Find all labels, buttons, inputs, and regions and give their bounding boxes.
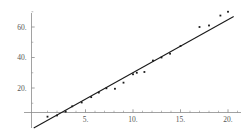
data-point: [180, 45, 182, 47]
scatter-plot-figure: 5.10.15.20. 20.40.60.: [0, 0, 245, 135]
x-axis-tick-label: 10.: [128, 115, 138, 124]
x-axis-tick-label: 5.: [83, 115, 89, 124]
plot-canvas: 5.10.15.20. 20.40.60.: [0, 0, 245, 135]
data-point-markers: [47, 11, 229, 118]
data-point: [106, 87, 108, 89]
data-point: [98, 92, 100, 94]
data-point: [199, 26, 201, 28]
data-point: [136, 72, 138, 74]
data-point: [123, 82, 125, 84]
data-point: [90, 96, 92, 98]
y-axis-ticks: [32, 12, 35, 104]
y-axis-tick-label: 20.: [17, 84, 27, 93]
data-point: [47, 116, 49, 118]
x-axis-tick-label: 15.: [176, 115, 186, 124]
x-axis-tick-label: 20.: [223, 115, 233, 124]
x-axis-ticks: [48, 109, 238, 112]
data-point: [169, 53, 171, 55]
data-point: [81, 102, 83, 104]
data-point: [144, 71, 146, 73]
data-point: [220, 15, 222, 17]
regression-line: [34, 16, 234, 127]
data-point: [56, 115, 58, 117]
data-point: [65, 111, 67, 113]
fitted-regression-line: [34, 16, 234, 127]
y-axis-tick-labels: 20.40.60.: [17, 23, 27, 93]
y-axis-tick-label: 40.: [17, 53, 27, 62]
data-point: [114, 88, 116, 90]
y-axis-tick-label: 60.: [17, 23, 27, 32]
data-point: [161, 57, 163, 59]
data-point: [71, 105, 73, 107]
data-point: [152, 60, 154, 62]
data-point: [208, 25, 210, 27]
data-point: [132, 73, 134, 75]
x-axis-tick-labels: 5.10.15.20.: [83, 115, 233, 124]
data-point: [227, 11, 229, 13]
